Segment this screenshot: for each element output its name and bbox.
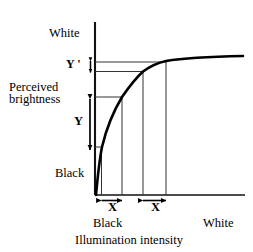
brightness-response-diagram	[0, 0, 253, 252]
delta-y-large-label: Y	[74, 114, 83, 129]
delta-y-small-label: Y '	[66, 57, 81, 72]
y-axis-top-label: White	[49, 26, 80, 41]
x-axis-title: Illumination intensity	[75, 233, 183, 248]
delta-x-right-label: X	[151, 200, 160, 215]
y-axis-bottom-label: Black	[55, 166, 84, 181]
response-curve	[96, 56, 243, 195]
delta-x-left-label: X	[108, 200, 117, 215]
x-axis-left-label: Black	[93, 216, 122, 231]
x-axis-right-label: White	[203, 216, 234, 231]
y-axis-title-line2: brightness	[9, 92, 60, 107]
